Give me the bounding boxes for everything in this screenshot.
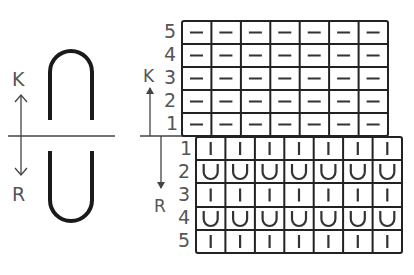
chart-down-arrow-icon bbox=[157, 136, 165, 189]
lower-row-3: 3 bbox=[178, 183, 190, 205]
legend-up-arrow-icon bbox=[15, 95, 27, 136]
stitch-legend: K R bbox=[8, 51, 115, 221]
lower-row-4: 4 bbox=[178, 206, 190, 228]
legend-k-label: K bbox=[12, 68, 25, 90]
upper-row-4: 4 bbox=[164, 43, 176, 65]
upper-row-5: 5 bbox=[164, 20, 176, 42]
lower-row-5: 5 bbox=[178, 229, 190, 251]
stitch-chart: K R 5 4 3 2 1 bbox=[140, 20, 402, 253]
chart-up-arrow-icon bbox=[146, 87, 154, 136]
lower-row-2: 2 bbox=[178, 160, 190, 182]
loop-top-icon bbox=[50, 51, 92, 120]
upper-row-2: 2 bbox=[164, 89, 176, 111]
knitting-diagram: K R K R 5 4 3 bbox=[0, 0, 414, 275]
upper-row-3: 3 bbox=[164, 66, 176, 88]
chart-r-label: R bbox=[154, 196, 166, 216]
upper-grid-dash-symbols bbox=[190, 33, 380, 125]
loop-bottom-icon bbox=[50, 151, 92, 221]
lower-row-1: 1 bbox=[180, 137, 192, 159]
legend-r-label: R bbox=[12, 183, 25, 205]
upper-row-numbers: 5 4 3 2 1 bbox=[164, 20, 178, 134]
chart-k-label: K bbox=[143, 66, 155, 86]
upper-row-1: 1 bbox=[166, 112, 178, 134]
legend-down-arrow-icon bbox=[15, 136, 27, 175]
lower-grid-bar-symbols bbox=[211, 142, 388, 248]
lower-row-numbers: 1 2 3 4 5 bbox=[178, 137, 192, 251]
